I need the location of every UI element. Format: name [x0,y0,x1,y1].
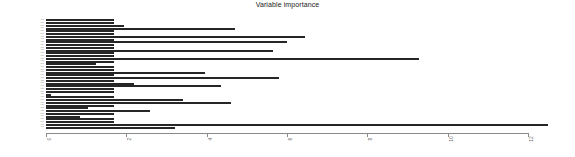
bar [46,63,96,65]
y-axis-label: var [28,118,44,120]
bar [46,113,114,115]
bar [46,110,150,112]
bar [46,61,114,63]
y-axis-label: var [28,38,44,40]
bar [46,25,124,27]
y-axis-label: var [28,104,44,106]
y-axis-label: var [28,22,44,24]
y-axis-label: var [28,25,44,27]
y-axis-label: var [28,47,44,49]
y-axis-label: var [28,49,44,51]
bar [46,55,114,57]
y-axis-label: var [28,99,44,101]
y-axis-label: var [28,85,44,87]
y-axis-label: var [28,60,44,62]
y-axis-label: var [28,66,44,68]
y-axis-label: var [28,74,44,76]
bar [46,66,114,68]
y-axis-label: var [28,77,44,79]
plot-area [46,19,548,129]
y-axis-label: var [28,30,44,32]
bar [46,36,305,38]
x-axis-tick-label: 8 [367,134,373,144]
y-axis-label: var [28,121,44,123]
y-axis-label: var [28,115,44,117]
bar [46,83,134,85]
y-axis-label: var [28,44,44,46]
bar [46,33,114,35]
bar [46,41,287,43]
y-axis-label: var [28,69,44,71]
x-axis-tick-label: 2 [126,134,132,144]
bar [46,52,114,54]
bar [46,116,80,118]
y-axis-label: var [28,96,44,98]
bar [46,58,419,60]
y-axis-label: var [28,110,44,112]
y-axis-label: var [28,52,44,54]
bar [46,77,279,79]
chart-title: Variable importance [0,1,575,8]
y-axis-label: var [28,91,44,93]
y-axis-label: var [28,33,44,35]
y-axis-label: var [28,107,44,109]
x-axis-tick-label: 4 [207,134,213,144]
bar [46,121,114,123]
y-axis-label: var [28,126,44,128]
y-axis-label: var [28,27,44,29]
x-axis-tick-label: 0 [46,134,52,144]
variable-importance-chart: Variable importance varvarvarvarvarvarva… [0,0,575,157]
bar [46,99,183,101]
x-axis-tick-label: 6 [287,134,293,144]
y-axis-labels: varvarvarvarvarvarvarvarvarvarvarvarvarv… [28,19,44,129]
y-axis-label: var [28,102,44,104]
bar [46,72,205,74]
y-axis-label: var [28,41,44,43]
y-axis-label: var [28,88,44,90]
bar [46,50,273,52]
y-axis-label: var [28,93,44,95]
bar [46,127,175,129]
bar [46,105,114,107]
bar [46,94,51,96]
bar [46,69,114,71]
bar [46,22,114,24]
y-axis-label: var [28,113,44,115]
y-axis-label: var [28,58,44,60]
bar-series [46,19,548,129]
y-axis-label: var [28,36,44,38]
bar [46,102,231,104]
bar [46,74,114,76]
bar [46,96,114,98]
x-axis-tick-label: 12 [528,134,534,144]
bar [46,91,114,93]
y-axis-label: var [28,71,44,73]
bar [46,44,114,46]
bar [46,19,114,21]
y-axis-label: var [28,82,44,84]
bar [46,118,114,120]
bar [46,88,114,90]
bar [46,124,548,126]
y-axis-label: var [28,124,44,126]
y-axis-label: var [28,63,44,65]
bar [46,39,114,41]
bar [46,80,114,82]
y-axis-label: var [28,19,44,21]
bar [46,107,88,109]
y-axis-label: var [28,55,44,57]
y-axis-label: var [28,80,44,82]
x-axis-tick-label: 10 [448,134,454,144]
bar [46,85,221,87]
bar [46,30,114,32]
bar [46,28,235,30]
bar [46,47,114,49]
